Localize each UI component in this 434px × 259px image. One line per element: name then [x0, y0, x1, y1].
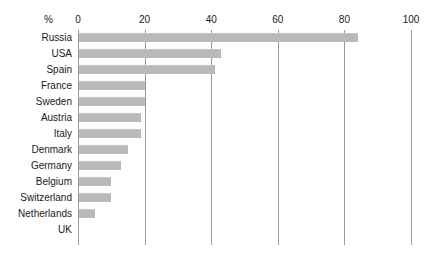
bar-row: Belgium [0, 174, 434, 190]
x-tick-label: 20 [139, 14, 150, 25]
bar-row: USA [0, 46, 434, 62]
x-tick-mark [278, 238, 279, 245]
x-tick-mark [78, 238, 79, 245]
x-tick-label: 80 [339, 14, 350, 25]
bar [79, 161, 121, 170]
category-label: Sweden [0, 94, 72, 110]
bar-row: Switzerland [0, 190, 434, 206]
x-axis-header: % 020406080100 [0, 0, 434, 30]
bar [79, 65, 215, 74]
category-label: France [0, 78, 72, 94]
bar [79, 177, 111, 186]
x-tick-mark [145, 238, 146, 245]
category-label: Netherlands [0, 206, 72, 222]
bar [79, 113, 141, 122]
bar [79, 33, 358, 42]
category-label: USA [0, 46, 72, 62]
category-label: Austria [0, 110, 72, 126]
bar-row: Russia [0, 30, 434, 46]
bar [79, 81, 145, 90]
bar [79, 129, 141, 138]
bar-rows: RussiaUSASpainFranceSwedenAustriaItalyDe… [0, 30, 434, 238]
bar [79, 97, 145, 106]
bar-row: France [0, 78, 434, 94]
x-tick-label: 100 [403, 14, 420, 25]
category-label: Italy [0, 126, 72, 142]
bar-row: UK [0, 222, 434, 238]
x-tick-mark [211, 238, 212, 245]
x-axis-unit-label: % [44, 14, 53, 25]
category-label: Germany [0, 158, 72, 174]
x-tick-mark [344, 238, 345, 245]
x-tick-label: 60 [272, 14, 283, 25]
category-label: Spain [0, 62, 72, 78]
bar [79, 209, 95, 218]
category-label: UK [0, 222, 72, 238]
x-tick-label: 0 [75, 14, 81, 25]
bar-row: Denmark [0, 142, 434, 158]
bar-row: Italy [0, 126, 434, 142]
bar-row: Austria [0, 110, 434, 126]
category-label: Russia [0, 30, 72, 46]
x-tick-label: 40 [206, 14, 217, 25]
bar-row: Germany [0, 158, 434, 174]
bar-chart: % 020406080100 RussiaUSASpainFranceSwede… [0, 0, 434, 259]
bar-row: Netherlands [0, 206, 434, 222]
bar-row: Spain [0, 62, 434, 78]
category-label: Switzerland [0, 190, 72, 206]
bar-row: Sweden [0, 94, 434, 110]
bar [79, 49, 221, 58]
x-tick-mark [411, 238, 412, 245]
category-label: Denmark [0, 142, 72, 158]
bar [79, 145, 128, 154]
bar [79, 193, 111, 202]
category-label: Belgium [0, 174, 72, 190]
